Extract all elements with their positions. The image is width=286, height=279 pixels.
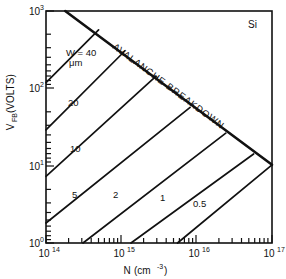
y-tick-exponent: 3: [40, 4, 44, 11]
curve-label-w2: 2: [113, 189, 118, 200]
y-tick-exponent: 2: [40, 81, 44, 88]
material-annotation: Si: [248, 19, 257, 30]
y-axis-title-sub: FB: [11, 113, 18, 122]
x-tick-mantissa: 10: [188, 248, 200, 259]
y-axis-title: V FB (VOLTS): [5, 74, 18, 130]
x-tick-mantissa: 10: [38, 248, 50, 259]
y-axis-title-main: V: [5, 123, 16, 130]
curve-label-w05: 0.5: [193, 198, 206, 209]
figure-container: AVALANCHE BREAKDOWN Si W = 40 μm 20 10 5…: [0, 0, 286, 279]
x-tick-label-1e15: 10 15: [113, 246, 135, 259]
y-tick-label-100: 10 2: [29, 81, 44, 94]
y-tick-mantissa: 10: [29, 6, 41, 17]
x-tick-labels: 10 14 10 15 10 16 10 17: [38, 246, 285, 259]
y-tick-exponent: 0: [40, 236, 44, 243]
x-tick-mantissa: 10: [263, 248, 275, 259]
y-axis-title-units: (VOLTS): [5, 74, 16, 113]
x-axis-title-close: ): [164, 265, 167, 276]
x-tick-exponent: 17: [277, 246, 285, 253]
x-axis-title-units: (cm: [134, 265, 151, 276]
plot-frame: [46, 11, 272, 243]
x-axis-title: N (cm -3 ): [123, 263, 167, 276]
y-tick-label-1000: 10 3: [29, 4, 44, 17]
x-axis-title-main: N: [123, 265, 130, 276]
y-tick-mantissa: 10: [29, 161, 41, 172]
curve-label-w20: 20: [68, 97, 79, 108]
curve-label-w10: 10: [70, 143, 81, 154]
curve-label-w40-units: μm: [69, 57, 82, 68]
x-tick-exponent: 16: [202, 246, 210, 253]
y-tick-mantissa: 10: [29, 83, 41, 94]
semiconductor-breakdown-chart: AVALANCHE BREAKDOWN Si W = 40 μm 20 10 5…: [0, 0, 286, 279]
material-label: Si: [248, 19, 257, 30]
x-tick-label-1e14: 10 14: [38, 246, 60, 259]
x-tick-label-1e16: 10 16: [188, 246, 210, 259]
x-axis-title-exponent: -3: [157, 263, 163, 270]
curve-label-w5: 5: [72, 189, 77, 200]
x-tick-mantissa: 10: [113, 248, 125, 259]
y-tick-exponent: 1: [40, 159, 44, 166]
curve-label-w1: 1: [160, 192, 165, 203]
y-tick-labels: 10 3 10 2 10 1 10 0: [29, 4, 44, 249]
x-tick-exponent: 15: [127, 246, 135, 253]
y-tick-label-10: 10 1: [29, 159, 44, 172]
x-tick-exponent: 14: [52, 246, 60, 253]
x-tick-label-1e17: 10 17: [263, 246, 285, 259]
